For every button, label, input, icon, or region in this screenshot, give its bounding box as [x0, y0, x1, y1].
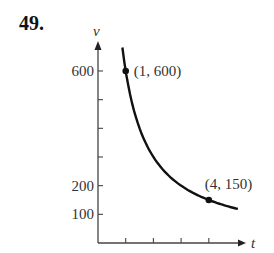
- data-point-marker: [206, 197, 213, 204]
- ticks: 100200600: [72, 63, 209, 243]
- y-tick-label: 600: [72, 63, 95, 79]
- y-axis-arrow-icon: [95, 41, 102, 50]
- x-axis-arrow-icon: [238, 240, 246, 247]
- axes: vt: [93, 23, 256, 251]
- y-tick-label: 100: [72, 206, 95, 222]
- point-annotation: (1, 600): [134, 63, 182, 80]
- point-annotation: (4, 150): [205, 176, 253, 193]
- y-tick-label: 200: [72, 178, 95, 194]
- y-axis-label: v: [93, 23, 100, 39]
- x-axis-label: t: [251, 235, 256, 251]
- data-point-marker: [122, 68, 129, 75]
- chart: vt 100200600 (1, 600)(4, 150): [0, 0, 274, 253]
